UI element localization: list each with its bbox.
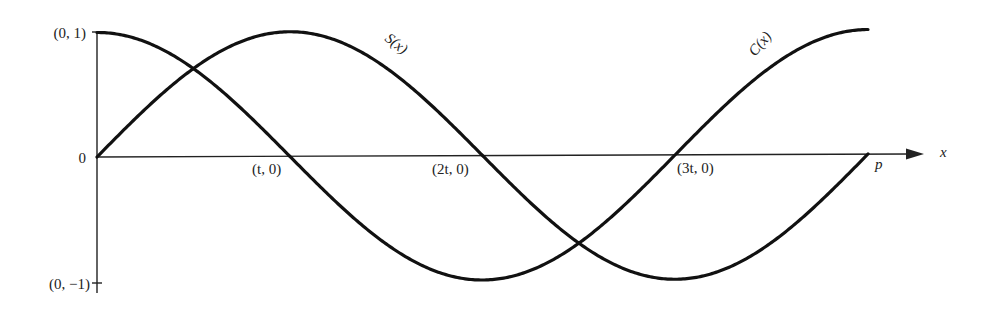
curve-label-c: C(x)	[745, 28, 775, 59]
y-top-label: (0, 1)	[54, 25, 87, 42]
x-axis-label: x	[939, 144, 947, 160]
x-tick-label-2t: (2t, 0)	[432, 161, 469, 178]
x-tick-label-t: (t, 0)	[252, 161, 281, 178]
y-bottom-label: (0, −1)	[49, 276, 90, 293]
x-tick-label-3t: (3t, 0)	[677, 160, 714, 177]
x-axis	[97, 154, 910, 157]
x-axis-arrowhead-icon	[906, 149, 924, 160]
endpoint-label-p: p	[874, 156, 883, 172]
curve-s	[97, 32, 868, 280]
sine-cosine-diagram: (0, 1) 0 (0, −1) (t, 0) (2t, 0) (3t, 0) …	[0, 0, 981, 312]
curve-label-s: S(x)	[382, 30, 412, 58]
y-origin-label: 0	[79, 150, 87, 166]
